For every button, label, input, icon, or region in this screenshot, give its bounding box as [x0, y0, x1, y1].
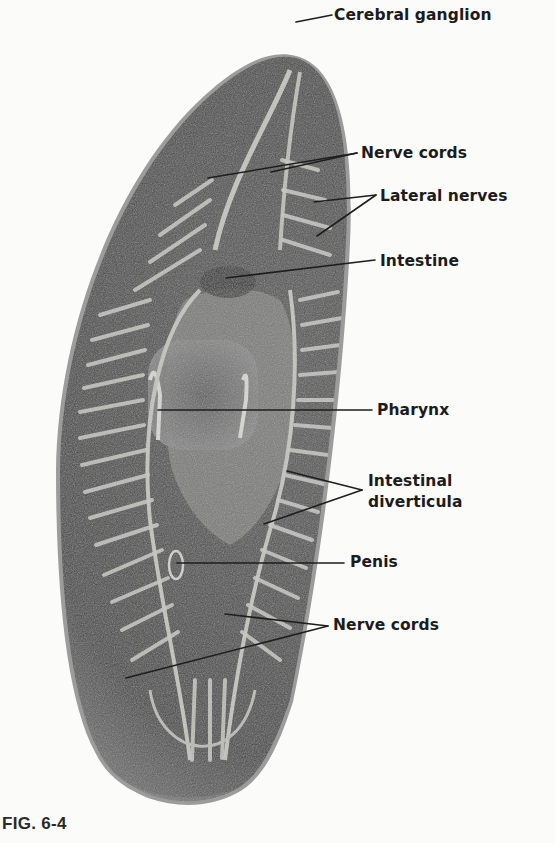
- figure-caption: FIG. 6-4: [2, 814, 67, 834]
- leader-line-cerebral-ganglion: [296, 15, 332, 22]
- label-nerve-cords-posterior: Nerve cords: [333, 615, 439, 636]
- label-text: Nerve cords: [333, 615, 439, 636]
- label-text: Nerve cords: [361, 143, 467, 164]
- label-nerve-cords-anterior: Nerve cords: [361, 143, 467, 164]
- label-text: Intestinal: [368, 471, 488, 492]
- label-text: Cerebral ganglion: [334, 5, 492, 26]
- label-intestine: Intestine: [380, 251, 459, 272]
- label-pharynx: Pharynx: [377, 400, 449, 421]
- planarian-specimen-image: [0, 0, 555, 843]
- label-text: Penis: [350, 552, 398, 573]
- label-penis: Penis: [350, 552, 398, 573]
- intestine-junction: [200, 266, 256, 298]
- label-intestinal-diverticula: Intestinaldiverticula: [368, 471, 488, 513]
- figure-6-4: Cerebral ganglionNerve cordsLateral nerv…: [0, 0, 555, 843]
- label-cerebral-ganglion: Cerebral ganglion: [334, 5, 492, 26]
- label-lateral-nerves: Lateral nerves: [380, 186, 508, 207]
- label-text: Intestine: [380, 251, 459, 272]
- label-text: Lateral nerves: [380, 186, 508, 207]
- label-text: Pharynx: [377, 400, 449, 421]
- label-text: diverticula: [368, 492, 488, 513]
